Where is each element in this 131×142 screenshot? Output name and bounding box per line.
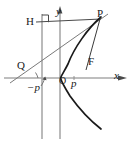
parabola-curve <box>61 17 102 129</box>
label-h: H <box>26 16 34 27</box>
label-p-value: p <box>71 78 77 89</box>
label-p-point: P <box>97 8 103 19</box>
figure-canvas <box>0 0 131 142</box>
label-minus-p: −p <box>27 82 40 93</box>
label-q: Q <box>17 60 25 71</box>
parabola-figure: H y P Q F O p −p x <box>0 0 131 142</box>
label-f-focus: F <box>88 56 94 67</box>
label-origin: O <box>59 76 66 86</box>
x-axis-arrow-icon <box>118 75 127 80</box>
segment-hp <box>36 19 101 22</box>
label-y-axis: y <box>56 6 61 17</box>
label-x-axis: x <box>114 70 119 81</box>
angle-arc-icon <box>36 73 39 79</box>
